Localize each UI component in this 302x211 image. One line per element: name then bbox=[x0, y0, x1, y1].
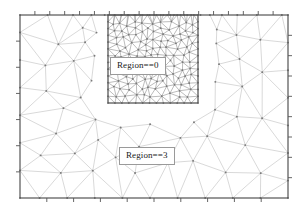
mesh-canvas bbox=[0, 0, 302, 211]
mesh-edges bbox=[20, 15, 288, 198]
mesh-figure: Region==0 Region==3 bbox=[0, 0, 302, 211]
region-label-refined: Region==0 bbox=[110, 57, 166, 75]
region-label-coarse: Region==3 bbox=[119, 147, 175, 165]
